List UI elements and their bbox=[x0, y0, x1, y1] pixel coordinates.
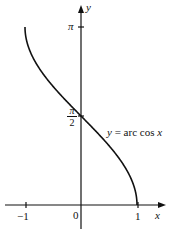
y-tick-label-pi-half: π 2 bbox=[67, 106, 77, 127]
curve-equation-label: y = arc cos x bbox=[107, 127, 162, 138]
curve-eq-body: = arc cos bbox=[112, 126, 157, 138]
arccos-plot bbox=[0, 0, 178, 244]
x-tick-label-neg1: −1 bbox=[17, 211, 29, 222]
pi-half-denominator: 2 bbox=[70, 117, 75, 128]
curve-eq-x: x bbox=[157, 126, 162, 138]
y-axis-label: y bbox=[86, 2, 91, 13]
x-tick-label-1: 1 bbox=[135, 211, 141, 222]
y-tick-label-pi: π bbox=[68, 21, 74, 32]
x-tick-label-0: 0 bbox=[73, 210, 79, 221]
y-axis-arrow-icon bbox=[78, 5, 84, 13]
x-axis-arrow-icon bbox=[158, 202, 166, 208]
x-axis-label: x bbox=[155, 210, 160, 221]
pi-half-numerator: π bbox=[69, 105, 74, 116]
